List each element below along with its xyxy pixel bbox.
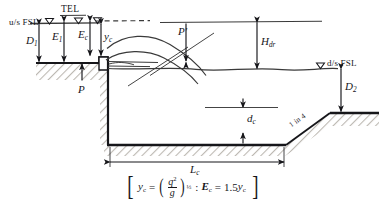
formula-open-paren: (: [160, 179, 164, 195]
critical-depth-formula: [ yc = ( q2 g ) ⅓ : Ec = 1.5 yc ]: [126, 176, 260, 198]
diagram-canvas: u/s FSL TEL d/s FSL 1 in 4 D1 E1 Ec yc P…: [0, 0, 379, 212]
label-Lc: Lc: [190, 164, 199, 177]
formula-exponent: ⅓: [186, 183, 191, 190]
label-Ec: Ec: [78, 29, 88, 42]
label-yc: yc: [104, 31, 112, 44]
formula-rhs-coefficient: 1.5: [224, 181, 238, 193]
label-D1: D1: [26, 35, 38, 48]
label-dc: dc: [247, 113, 256, 126]
label-P-prime: P': [178, 26, 187, 37]
formula-open-bracket: [: [127, 176, 133, 198]
formula-yc-sub: c: [143, 186, 146, 194]
formula-separator: :: [195, 181, 198, 193]
formula-close-bracket: ]: [252, 176, 258, 198]
label-tel: TEL: [61, 5, 79, 15]
formula-frac-denominator: g: [168, 187, 177, 198]
formula-frac-numerator: q2: [166, 176, 178, 187]
label-ds-fsl: d/s FSL: [327, 59, 357, 68]
formula-rhs-equals: =: [215, 181, 221, 193]
formula-close-paren: ): [181, 179, 185, 195]
label-Hdr: Hdr: [261, 36, 275, 49]
earth-hatching: [36, 63, 379, 156]
formula-equals: =: [149, 181, 155, 193]
formula-rhs-yc-sub: c: [243, 186, 246, 194]
label-E1: E1: [52, 31, 62, 44]
formula-Ec-sub: c: [209, 186, 212, 194]
ds-fsl-triangle-icon: [317, 63, 325, 69]
label-P: P: [78, 84, 85, 95]
formula-fraction: q2 g: [166, 176, 178, 198]
label-D2: D2: [345, 81, 357, 94]
label-us-fsl: u/s FSL: [9, 18, 39, 27]
formula-Ec-base: E: [201, 180, 208, 192]
